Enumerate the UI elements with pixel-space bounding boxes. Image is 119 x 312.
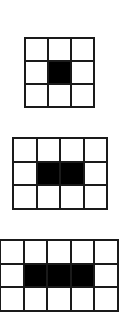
empty-cell — [72, 241, 96, 265]
empty-cell — [49, 85, 72, 108]
empty-cell — [95, 241, 119, 265]
empty-cell — [26, 62, 49, 85]
empty-cell — [26, 85, 49, 108]
filled-cell — [61, 163, 85, 187]
filled-cell — [72, 265, 96, 289]
empty-cell — [49, 39, 72, 62]
empty-cell — [72, 62, 95, 85]
empty-cell — [85, 163, 109, 187]
filled-cell — [25, 265, 49, 289]
empty-cell — [72, 39, 95, 62]
empty-cell — [1, 288, 25, 312]
grid-3x3-one-center — [24, 37, 95, 108]
filled-cell — [49, 62, 72, 85]
empty-cell — [1, 241, 25, 265]
empty-cell — [72, 288, 96, 312]
grid-3x5-three-center — [0, 239, 119, 312]
empty-cell — [95, 265, 119, 289]
empty-cell — [85, 139, 109, 163]
empty-cell — [61, 139, 85, 163]
empty-cell — [26, 39, 49, 62]
empty-cell — [48, 241, 72, 265]
empty-cell — [25, 288, 49, 312]
empty-cell — [14, 139, 38, 163]
empty-cell — [38, 139, 62, 163]
filled-cell — [38, 163, 62, 187]
empty-cell — [48, 288, 72, 312]
empty-cell — [85, 186, 109, 210]
empty-cell — [95, 288, 119, 312]
empty-cell — [25, 241, 49, 265]
grid-3x4-two-center — [12, 137, 108, 210]
filled-cell — [48, 265, 72, 289]
empty-cell — [1, 265, 25, 289]
empty-cell — [14, 163, 38, 187]
empty-cell — [14, 186, 38, 210]
empty-cell — [61, 186, 85, 210]
empty-cell — [38, 186, 62, 210]
empty-cell — [72, 85, 95, 108]
